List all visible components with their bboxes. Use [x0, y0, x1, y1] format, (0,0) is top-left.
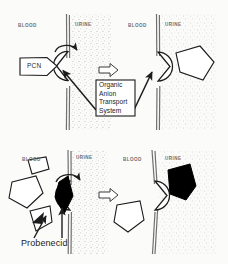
panel-bottom-right: [114, 150, 216, 254]
substrate-probenecid-bl: [55, 176, 73, 214]
urine-label-tl: URINE: [75, 22, 92, 28]
panel-top-right: [133, 14, 216, 130]
pcn-substrate-label: PCN: [27, 62, 41, 69]
blood-label-br: BLOOD: [123, 157, 142, 163]
callout-line-4: System: [99, 107, 121, 115]
blood-label-bl: BLOOD: [22, 157, 41, 163]
urine-label-bl: URINE: [76, 155, 93, 161]
blood-label-tl: BLOOD: [18, 23, 37, 29]
free-pcn-bl-b: [9, 176, 43, 208]
callout-line-1: Organic: [99, 81, 122, 89]
diagram-canvas: BLOOD URINE BLOOD URINE BLOOD URINE BLOO…: [0, 0, 228, 264]
blood-label-tr: BLOOD: [128, 23, 147, 29]
callout-line-2: Anion: [99, 90, 116, 98]
callout-line-3: Transport: [99, 98, 127, 106]
membrane-br: [152, 150, 158, 254]
diagram-vector-layer: [0, 0, 228, 264]
urine-label-tr: URINE: [165, 22, 182, 28]
urine-label-br: URINE: [165, 156, 182, 162]
probenecid-label: Probenecid: [21, 238, 68, 248]
membrane-tr: [157, 14, 160, 130]
urine-field-bl: [72, 150, 108, 254]
membrane-tl: [66, 14, 69, 130]
callout-leader-tr: [133, 72, 152, 112]
free-pcn-br: [114, 201, 144, 232]
